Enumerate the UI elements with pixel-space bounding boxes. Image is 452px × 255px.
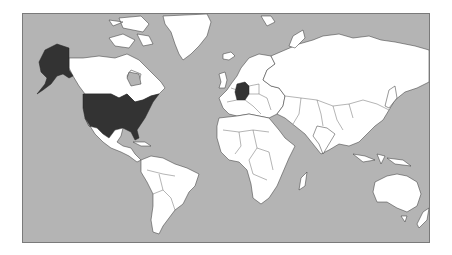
country-south-america[interactable] [141,156,199,234]
map-canvas [23,14,429,242]
island-svalbard[interactable] [261,16,275,26]
country-cuba[interactable] [133,142,151,146]
country-germany[interactable] [235,82,249,100]
country-uk[interactable] [219,72,227,88]
world-map [22,13,430,243]
country-australia[interactable] [373,174,421,212]
country-greenland[interactable] [163,14,211,60]
country-iceland[interactable] [223,52,235,60]
country-africa[interactable] [217,114,295,204]
country-usa-alaska[interactable] [37,44,73,94]
country-madagascar[interactable] [299,172,307,190]
country-australia-tasmania[interactable] [401,216,407,222]
country-new-zealand[interactable] [417,208,429,228]
country-canada-islands[interactable] [109,16,153,48]
country-indonesia[interactable] [353,154,411,166]
country-russia-asia[interactable] [263,34,429,154]
